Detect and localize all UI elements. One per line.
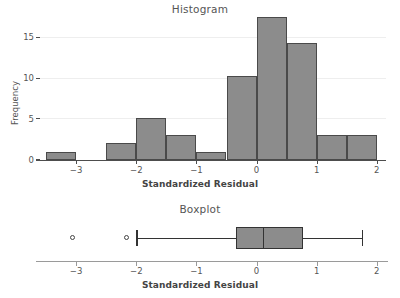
histogram-x-ticklabel: −2 [130,165,143,175]
histogram-y-ticklabel: 10 [12,73,34,83]
histogram-bar [317,135,347,160]
histogram-bar [347,135,377,160]
gridline-5 [40,118,386,119]
boxplot-x-axis-label: Standardized Residual [0,280,400,290]
histogram-x-tick [76,160,77,164]
histogram-bar [166,135,196,160]
histogram-x-ticklabel: 0 [254,165,259,175]
histogram-bar [287,43,317,160]
histogram-y-tick [36,159,40,160]
boxplot-x-ticklabel: 0 [254,266,259,276]
histogram-bar [257,17,287,160]
histogram-y-ticklabel: 15 [12,32,34,42]
histogram-x-tick [317,160,318,164]
histogram-x-tick [136,160,137,164]
histogram-y-tick [36,118,40,119]
boxplot-x-ticklabel: −2 [130,266,143,276]
histogram-x-ticklabel: 1 [314,165,319,175]
histogram-y-ticklabel: 5 [12,114,34,124]
histogram-bar [227,76,257,160]
histogram-plot-area [40,8,386,160]
boxplot-outlier [70,235,75,240]
histogram-y-tick [36,78,40,79]
gridline-15 [40,37,386,38]
histogram-x-tick [377,160,378,164]
histogram-x-tick [257,160,258,164]
histogram-x-ticklabel: −1 [190,165,203,175]
boxplot-x-ticklabel: 1 [314,266,319,276]
histogram-panel: Histogram Frequency [0,0,400,198]
boxplot-whisker-cap-high [362,230,363,246]
boxplot-x-ticklabel: −1 [190,266,203,276]
gridline-10 [40,78,386,79]
boxplot-plot-area [40,220,386,262]
boxplot-x-tick [317,262,318,266]
boxplot-whisker-cap-low [136,230,137,246]
histogram-bar [136,118,166,160]
boxplot-x-axis [36,261,388,262]
boxplot-x-ticklabel: −3 [70,266,83,276]
boxplot-x-tick [136,262,137,266]
boxplot-x-ticklabel: 2 [374,266,379,276]
boxplot-panel: Boxplot −3 −2 −1 0 1 2 Standar [0,198,400,298]
boxplot-x-tick [76,262,77,266]
histogram-x-ticklabel: 2 [374,165,379,175]
boxplot-box [236,227,304,249]
histogram-x-axis [36,160,386,161]
histogram-y-tick [36,37,40,38]
boxplot-x-tick [377,262,378,266]
figure-root: Histogram Frequency [0,0,400,298]
histogram-x-axis-label: Standardized Residual [0,179,400,189]
histogram-bar [106,143,136,160]
boxplot-x-tick [196,262,197,266]
histogram-x-ticklabel: −3 [70,165,83,175]
histogram-y-ticklabel: 0 [12,155,34,165]
boxplot-x-tick [257,262,258,266]
boxplot-median-line [263,227,264,249]
boxplot-title: Boxplot [0,203,400,215]
boxplot-outlier [124,235,129,240]
histogram-x-tick [196,160,197,164]
